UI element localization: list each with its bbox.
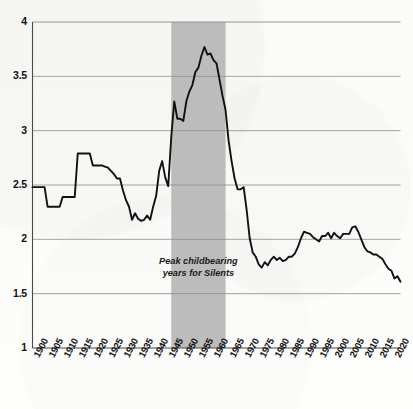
y-axis-tick-label: 3.5 — [3, 69, 27, 81]
fertility-rate-chart: 43.532.521.51 19001905191019151920192519… — [0, 0, 413, 409]
band-annotation-line2: years for Silents — [146, 267, 250, 279]
y-axis-tick-label: 3 — [3, 124, 27, 136]
y-axis-tick-label: 1 — [3, 341, 27, 353]
y-axis-tick-label: 2.5 — [3, 178, 27, 190]
y-axis-tick-label: 2 — [3, 232, 27, 244]
band-annotation-line1: Peak childbearing — [146, 255, 250, 267]
band-annotation: Peak childbearing years for Silents — [146, 255, 250, 280]
y-axis-tick-label: 1.5 — [3, 287, 27, 299]
y-axis-tick-label: 4 — [3, 15, 27, 27]
